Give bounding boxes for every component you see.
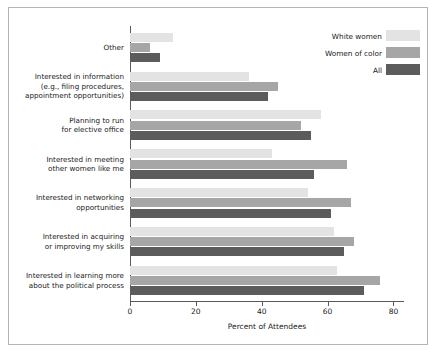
legend-item-all: All [300,64,420,78]
chart-legend: White women Women of color All [300,30,420,81]
x-tick-60 [328,302,329,306]
x-tick-label-20: 20 [191,307,201,316]
category-label: Other [14,43,124,52]
x-tick-20 [196,302,197,306]
bar [130,121,301,130]
bar [130,170,314,179]
bar [130,33,173,42]
legend-label-all: All [373,66,382,75]
legend-label-white-women: White women [332,32,382,41]
x-axis-title: Percent of Attendees [130,322,404,331]
bar [130,72,249,81]
x-tick-80 [393,302,394,306]
bar [130,43,150,52]
legend-swatch-all [386,64,420,75]
x-tick-label-0: 0 [128,307,133,316]
bar [130,286,364,295]
bar [130,266,337,275]
x-tick-0 [130,302,131,306]
legend-item-white-women: White women [300,30,420,44]
bar [130,149,272,158]
bar [130,198,351,207]
bar [130,227,334,236]
bar [130,160,347,169]
bar [130,131,311,140]
chart-figure: 020406080 Percent of Attendees OtherInte… [0,0,436,354]
legend-swatch-women-of-color [386,47,420,58]
bar [130,110,321,119]
category-label: Planning to run for elective office [14,116,124,135]
legend-label-women-of-color: Women of color [325,49,382,58]
x-tick-label-80: 80 [389,307,399,316]
bar [130,276,380,285]
bar [130,92,268,101]
x-tick-label-40: 40 [257,307,267,316]
bar [130,209,331,218]
category-label: Interested in meeting other women like m… [14,155,124,174]
category-label: Interested in networking opportunities [14,193,124,212]
x-tick-40 [262,302,263,306]
legend-swatch-white-women [386,30,420,41]
bar [130,82,278,91]
bar [130,188,308,197]
bar [130,237,354,246]
bar [130,247,344,256]
x-tick-label-60: 60 [323,307,333,316]
x-axis-line [130,301,404,302]
category-label: Interested in learning more about the po… [14,271,124,290]
category-label: Interested in acquiring or improving my … [14,232,124,251]
bar [130,53,160,62]
legend-item-women-of-color: Women of color [300,47,420,61]
category-label: Interested in information (e.g., filing … [14,72,124,100]
